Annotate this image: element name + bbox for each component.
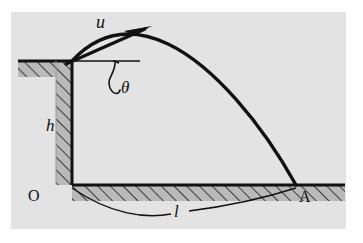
leader-line-icon bbox=[109, 63, 120, 94]
velocity-label: u bbox=[96, 13, 105, 31]
range-label: l bbox=[174, 203, 179, 220]
height-label: h bbox=[46, 117, 55, 134]
figure-canvas: u θ h l O A bbox=[0, 0, 363, 243]
projectile-path bbox=[72, 34, 296, 185]
wall-hatching bbox=[56, 61, 72, 185]
angle-label: θ bbox=[121, 79, 129, 96]
origin-label: O bbox=[28, 188, 40, 204]
landing-point-label: A bbox=[299, 189, 311, 205]
